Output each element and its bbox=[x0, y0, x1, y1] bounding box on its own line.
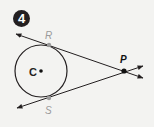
tangent-circle-diagram: C R S P bbox=[0, 0, 154, 127]
label-c: C bbox=[29, 66, 37, 78]
point-s bbox=[47, 96, 51, 100]
point-r bbox=[47, 43, 51, 47]
label-r: R bbox=[45, 30, 52, 41]
label-s: S bbox=[45, 105, 52, 116]
point-p bbox=[121, 68, 126, 73]
label-p: P bbox=[120, 54, 127, 65]
center-point-c bbox=[39, 69, 43, 73]
